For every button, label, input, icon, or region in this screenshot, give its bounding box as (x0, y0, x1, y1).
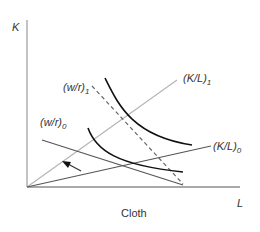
label-wr-1: (w/r)1 (63, 81, 89, 96)
ray-kl-0 (27, 146, 211, 187)
price-line-wr-0 (42, 140, 183, 185)
caption-cloth: Cloth (121, 207, 147, 219)
x-axis-label: L (237, 197, 243, 209)
isoquant-high (105, 78, 192, 145)
label-wr-0: (w/r)0 (40, 116, 67, 131)
rotation-arrow-shaft (68, 164, 81, 171)
label-kl-0: (K/L)0 (213, 140, 242, 155)
rotation-arrow-head (62, 161, 71, 168)
y-axis-label: K (12, 21, 20, 33)
isoquant-low (88, 128, 183, 172)
label-kl-1: (K/L)1 (183, 72, 211, 87)
factor-intensity-diagram: K L Cloth (K/L)1 (K/L)0 (w/r)1 (w/r)0 (0, 0, 260, 232)
